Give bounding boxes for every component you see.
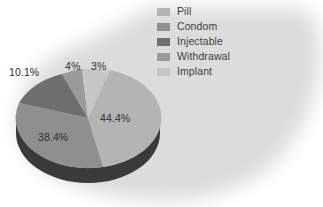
pie-value-label-condom: 38.4% (38, 131, 68, 143)
legend-item-withdrawal: Withdrawal (157, 51, 230, 62)
legend-swatch-icon (157, 8, 170, 16)
pie-value-label-injectable: 10.1% (9, 66, 39, 78)
pie-slices (16, 68, 162, 168)
legend-swatch-icon (157, 38, 170, 46)
legend-item-condom: Condom (157, 21, 230, 32)
legend-label: Implant (177, 66, 212, 77)
legend-item-injectable: Injectable (157, 36, 230, 47)
legend-swatch-icon (157, 68, 170, 76)
legend-label: Injectable (177, 36, 223, 47)
pie-chart-figure: 44.4% 38.4% 10.1% 4% 3% Pill Condom Inje… (0, 0, 323, 207)
legend-label: Pill (177, 6, 191, 17)
legend-label: Withdrawal (177, 51, 230, 62)
pie-value-label-pill: 44.4% (100, 112, 130, 124)
legend-item-implant: Implant (157, 66, 230, 77)
pie-value-label-implant: 3% (91, 60, 106, 72)
legend-item-pill: Pill (157, 6, 230, 17)
legend-label: Condom (177, 21, 217, 32)
pie-value-label-withdrawal: 4% (65, 60, 80, 72)
chart-legend: Pill Condom Injectable Withdrawal Implan… (157, 6, 230, 77)
legend-swatch-icon (157, 23, 170, 31)
legend-swatch-icon (157, 53, 170, 61)
